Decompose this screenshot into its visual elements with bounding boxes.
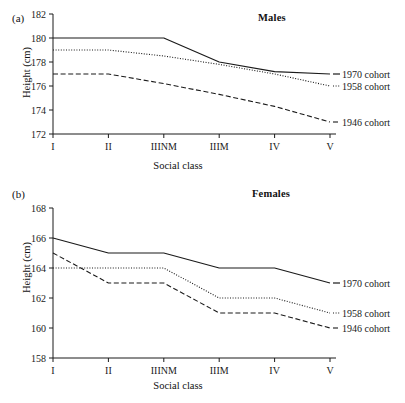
y-tick-label: 158: [31, 353, 46, 364]
x-tick-label: I: [51, 365, 54, 376]
plot-area-males: 172174176178180182IIIIIINMIIIMIVV1970 co…: [0, 0, 405, 180]
series-label-1970: 1970 cohort: [342, 278, 390, 289]
series-line-1970: [53, 38, 330, 74]
y-tick-label: 166: [31, 233, 46, 244]
x-tick-label: II: [105, 365, 112, 376]
series-label-1970: 1970 cohort: [342, 69, 390, 80]
x-tick-label: IV: [269, 141, 280, 152]
figure-panels: (a) Males Height (cm) Social class 17217…: [0, 0, 405, 403]
x-tick-label: I: [51, 141, 54, 152]
panel-females: (b) Females Height (cm) Social class 158…: [0, 180, 405, 403]
y-tick-label: 164: [31, 263, 46, 274]
x-tick-label: IV: [269, 365, 280, 376]
x-tick-label: IIIM: [210, 141, 229, 152]
y-axis-label-a: Height (cm): [21, 33, 32, 113]
series-line-1970: [53, 238, 330, 283]
x-tick-label: V: [326, 141, 334, 152]
y-tick-label: 176: [31, 81, 46, 92]
x-axis-label-a: Social class: [118, 160, 238, 171]
series-line-1958: [53, 268, 330, 313]
y-tick-label: 182: [31, 9, 46, 20]
plot-area-females: 158160162164166168IIIIIINMIIIMIVV1970 co…: [0, 180, 405, 403]
y-axis-label-b: Height (cm): [21, 228, 32, 308]
y-tick-label: 160: [31, 323, 46, 334]
series-label-1958: 1958 cohort: [342, 308, 390, 319]
panel-letter-b: (b): [12, 188, 25, 200]
panel-males: (a) Males Height (cm) Social class 17217…: [0, 0, 405, 180]
y-tick-label: 172: [31, 129, 46, 140]
y-tick-label: 178: [31, 57, 46, 68]
x-axis-label-b: Social class: [118, 380, 238, 391]
series-label-1946: 1946 cohort: [342, 117, 390, 128]
y-tick-label: 162: [31, 293, 46, 304]
x-tick-label: IIINM: [151, 365, 177, 376]
y-tick-label: 168: [31, 203, 46, 214]
series-line-1946: [53, 253, 330, 328]
y-tick-label: 180: [31, 33, 46, 44]
x-tick-label: IIIM: [210, 365, 229, 376]
x-tick-label: V: [326, 365, 334, 376]
series-label-1946: 1946 cohort: [342, 323, 390, 334]
x-tick-label: IIINM: [151, 141, 177, 152]
series-label-1958: 1958 cohort: [342, 81, 390, 92]
x-tick-label: II: [105, 141, 112, 152]
y-tick-label: 174: [31, 105, 46, 116]
series-line-1946: [53, 74, 330, 122]
panel-letter-a: (a): [12, 12, 24, 24]
panel-title-females: Females: [252, 188, 290, 199]
panel-title-males: Males: [258, 12, 286, 23]
series-line-1958: [53, 50, 330, 86]
